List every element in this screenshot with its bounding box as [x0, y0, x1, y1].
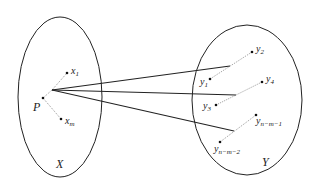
point-xm-label: xm: [64, 115, 75, 128]
point-y4-dot: [261, 81, 264, 84]
point-y2-dot: [251, 51, 254, 54]
dotted-p-x1: [52, 73, 67, 90]
point-ynm2-label: yn−m−2: [213, 143, 240, 156]
point-xm-dot: [60, 118, 63, 121]
point-y3-dot: [215, 104, 218, 107]
diagram-canvas: X Y P x1 xm y2 y1 y4 y3 yn−m−1 yn−m−2: [0, 0, 316, 190]
set-x-label: X: [55, 157, 64, 171]
point-ynm2-dot: [219, 141, 222, 144]
point-x1-label: x1: [70, 65, 79, 78]
point-y2-label: y2: [255, 43, 264, 56]
point-p-label: P: [32, 100, 41, 114]
point-y4-label: y4: [265, 73, 274, 86]
set-x-ellipse: [18, 17, 102, 177]
set-y-ellipse: [192, 25, 302, 175]
point-y1-dot: [209, 78, 212, 81]
point-y3-label: y3: [202, 100, 211, 113]
set-y-label: Y: [262, 155, 270, 169]
dotted-p-join: [43, 90, 52, 98]
point-ynm1-label: yn−m−1: [255, 115, 282, 128]
dotted-y3-y4: [216, 82, 262, 105]
point-y1-label: y1: [199, 76, 208, 89]
point-x1-dot: [66, 72, 69, 75]
dotted-y1-y2: [210, 52, 252, 79]
map-line-2: [52, 90, 236, 95]
point-p-dot: [42, 97, 45, 100]
dotted-p-xm: [43, 98, 61, 119]
